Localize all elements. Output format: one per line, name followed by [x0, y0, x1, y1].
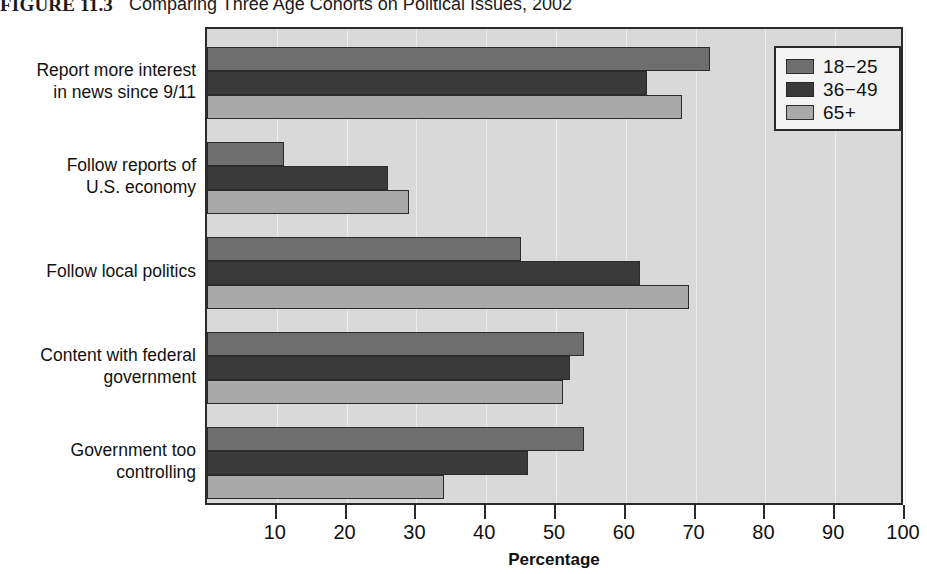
legend-label-18-25: 18−25: [823, 56, 878, 78]
category-label-3: Content with federalgovernment: [0, 344, 196, 388]
x-tick-mark-40: [484, 505, 486, 519]
category-label-line: Follow reports of: [0, 154, 196, 176]
x-tick-label-40: 40: [459, 521, 509, 544]
category-label-line: in news since 9/11: [0, 81, 196, 103]
category-label-4: Government toocontrolling: [0, 439, 196, 483]
bar-0-2: [207, 95, 682, 119]
bar-3-0: [207, 332, 584, 356]
x-axis: 102030405060708090100 Percentage: [205, 505, 903, 574]
bar-4-2: [207, 475, 444, 499]
gridline-100: [905, 29, 906, 503]
category-label-0: Report more interestin news since 9/11: [0, 59, 196, 103]
category-label-2: Follow local politics: [0, 260, 196, 282]
x-tick-label-10: 10: [250, 521, 300, 544]
x-tick-label-100: 100: [878, 521, 927, 544]
x-tick-label-50: 50: [529, 521, 579, 544]
category-axis-labels: Report more interestin news since 9/11Fo…: [0, 0, 196, 574]
x-tick-mark-70: [694, 505, 696, 519]
legend-swatch-icon-65-plus: [786, 105, 814, 120]
bar-3-1: [207, 356, 570, 380]
gridline-70: [696, 29, 697, 503]
bar-1-2: [207, 190, 409, 214]
category-label-line: Content with federal: [0, 344, 196, 366]
bar-4-0: [207, 427, 584, 451]
x-tick-label-20: 20: [320, 521, 370, 544]
bar-4-1: [207, 451, 528, 475]
plot-area: 18−25 36−49 65+: [205, 27, 903, 505]
x-tick-mark-60: [624, 505, 626, 519]
x-tick-mark-20: [345, 505, 347, 519]
legend-swatch-icon-36-49: [786, 82, 814, 97]
gridline-80: [765, 29, 766, 503]
x-tick-label-90: 90: [808, 521, 858, 544]
chart-legend: 18−25 36−49 65+: [774, 46, 901, 131]
legend-label-36-49: 36−49: [823, 79, 878, 101]
category-label-line: government: [0, 366, 196, 388]
x-tick-mark-90: [833, 505, 835, 519]
x-tick-mark-80: [763, 505, 765, 519]
legend-swatch-icon-18-25: [786, 59, 814, 74]
bar-2-0: [207, 237, 521, 261]
x-tick-label-80: 80: [738, 521, 788, 544]
x-tick-mark-10: [275, 505, 277, 519]
category-label-line: U.S. economy: [0, 176, 196, 198]
bar-2-1: [207, 261, 640, 285]
bar-0-0: [207, 47, 710, 71]
bar-1-0: [207, 142, 284, 166]
bar-3-2: [207, 380, 563, 404]
x-tick-mark-100: [903, 505, 905, 519]
x-axis-title: Percentage: [205, 550, 903, 570]
bar-1-1: [207, 166, 388, 190]
x-tick-mark-30: [414, 505, 416, 519]
bar-2-2: [207, 285, 689, 309]
category-label-line: Government too: [0, 439, 196, 461]
legend-item-65-plus: 65+: [786, 101, 899, 124]
legend-item-18-25: 18−25: [786, 55, 899, 78]
legend-label-65-plus: 65+: [823, 102, 856, 124]
category-label-line: controlling: [0, 461, 196, 483]
x-tick-label-60: 60: [599, 521, 649, 544]
x-tick-label-70: 70: [669, 521, 719, 544]
bar-0-1: [207, 71, 647, 95]
category-label-line: Report more interest: [0, 59, 196, 81]
category-label-1: Follow reports ofU.S. economy: [0, 154, 196, 198]
legend-item-36-49: 36−49: [786, 78, 899, 101]
x-tick-mark-50: [554, 505, 556, 519]
x-tick-label-30: 30: [389, 521, 439, 544]
category-label-line: Follow local politics: [0, 260, 196, 282]
